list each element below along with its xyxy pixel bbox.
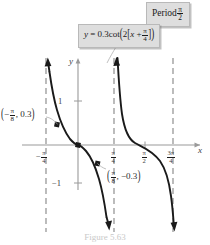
equation-open-paren: ( — [120, 28, 123, 42]
tick-neg-pi-over-4-fraction: π 4 — [41, 150, 46, 164]
left-label-x-sign: − — [4, 109, 9, 119]
tick-three-pi-over-4-fraction: 3π 4 — [167, 150, 176, 164]
right-label-x-denominator: 8 — [111, 177, 117, 185]
tick-neg-pi-over-4-den: 4 — [41, 157, 46, 165]
equation-function-name: cot — [109, 29, 120, 39]
period-denominator: 2 — [177, 13, 183, 21]
left-point-label: (− π 8 , 0.3) — [1, 108, 34, 123]
x-tick-label-pi-over-4: π 4 — [110, 150, 116, 164]
tick-pi-over-2-den: 2 — [142, 157, 147, 165]
tick-pi-over-4-fraction: π 4 — [111, 150, 116, 164]
left-label-x-numerator: π — [10, 108, 16, 115]
equation-inner-plus: + — [137, 29, 142, 39]
leader-left-point — [46, 117, 58, 124]
equation-inner-variable: x — [130, 29, 134, 39]
equation-coefficient: 0.3 — [98, 29, 109, 39]
marked-points — [54, 122, 100, 167]
left-label-open-paren: ( — [1, 108, 4, 122]
x-tick-label-pi-over-2: π 2 — [141, 150, 147, 164]
tick-neg-pi-over-4-num: π — [41, 150, 46, 157]
period-callout-text: Period — [152, 8, 177, 18]
y-axis — [76, 58, 81, 190]
y-tick-label-one: 1 — [58, 97, 62, 106]
point-marker-neg-pi-over-8 — [54, 122, 60, 128]
point-marker-origin — [75, 142, 81, 148]
tick-neg-pi-over-4-sign: − — [36, 151, 41, 161]
tick-pi-over-4-num: π — [111, 150, 116, 157]
equation-lhs: y — [84, 29, 88, 39]
equation-open-bracket: [ — [127, 29, 130, 41]
equation-callout-box: y = 0.3cot(2[x + π 4 ]) — [78, 24, 160, 48]
left-label-y-value: 0.3 — [20, 109, 31, 119]
left-label-x-denominator: 8 — [10, 115, 16, 123]
tick-three-pi-over-4-num: 3π — [167, 150, 176, 157]
y-tick-label-neg-one: −1 — [52, 179, 61, 188]
right-label-open-paren: ( — [107, 170, 110, 184]
equation-equals: = — [90, 29, 95, 39]
leader-equation-callout — [107, 47, 116, 63]
equation-inner-fraction: π 4 — [142, 28, 148, 43]
tick-three-pi-over-4-den: 4 — [167, 157, 176, 165]
right-label-x-numerator: π — [111, 170, 117, 177]
x-tick-label-neg-pi-over-4: − π 4 — [36, 150, 47, 164]
right-label-x-fraction: π 8 — [111, 170, 117, 185]
period-numerator: π — [177, 6, 183, 13]
equation-inner-denominator: 4 — [142, 35, 148, 43]
figure-caption: Figure 5.63 — [0, 233, 210, 242]
period-value-fraction: π 2 — [177, 6, 183, 22]
right-label-y-value: −0.3 — [121, 171, 137, 181]
x-axis-label: x — [198, 146, 202, 155]
tick-pi-over-4-den: 4 — [111, 157, 116, 165]
tick-pi-over-2-fraction: π 2 — [142, 150, 147, 164]
left-label-close-paren: ) — [31, 108, 34, 122]
x-tick-label-three-pi-over-4: 3π 4 — [166, 150, 176, 164]
right-point-label: ( π 8 , −0.3) — [107, 170, 140, 185]
left-label-x-fraction: π 8 — [10, 108, 16, 123]
tick-pi-over-2-num: π — [142, 150, 147, 157]
y-axis-label: y — [69, 57, 73, 66]
equation-inner-numerator: π — [142, 28, 148, 35]
right-label-close-paren: ) — [137, 170, 140, 184]
equation-close-paren: ) — [151, 28, 154, 42]
